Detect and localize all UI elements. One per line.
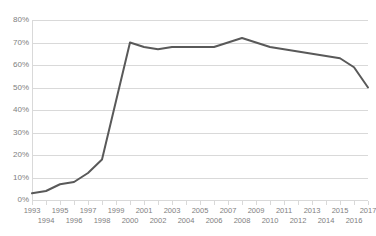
series-line [32,38,368,193]
